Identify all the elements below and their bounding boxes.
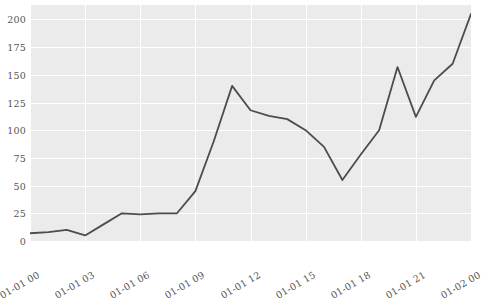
y-tick-label-6: 150 xyxy=(7,69,26,80)
y-tick-label-4: 100 xyxy=(7,125,26,136)
x-tick-label-7: 01-01 21 xyxy=(384,269,428,301)
y-tick-label-0: 0 xyxy=(20,236,26,247)
series-polyline xyxy=(30,14,471,236)
x-tick-label-0: 01-01 00 xyxy=(0,269,41,301)
y-tick-label-2: 50 xyxy=(14,180,27,191)
y-tick-label-3: 75 xyxy=(14,152,27,163)
x-axis-tick-labels: 01-01 0001-01 0301-01 0601-01 0901-01 12… xyxy=(30,241,471,284)
y-tick-label-7: 175 xyxy=(7,42,26,53)
x-tick-label-8: 01-02 00 xyxy=(439,269,482,301)
y-tick-label-1: 25 xyxy=(14,208,27,219)
x-tick-label-1: 01-01 03 xyxy=(53,269,97,301)
x-tick-label-2: 01-01 06 xyxy=(108,269,152,301)
line-series-value xyxy=(30,5,471,241)
plot-area xyxy=(30,5,471,241)
y-tick-label-8: 200 xyxy=(7,14,26,25)
x-tick-label-3: 01-01 09 xyxy=(163,269,207,301)
x-tick-label-6: 01-01 18 xyxy=(328,269,372,301)
y-axis-tick-labels: 0255075100125150175200 xyxy=(0,5,30,241)
y-tick-label-5: 125 xyxy=(7,97,26,108)
x-tick-label-5: 01-01 15 xyxy=(273,269,317,301)
x-tick-label-4: 01-01 12 xyxy=(218,269,262,301)
